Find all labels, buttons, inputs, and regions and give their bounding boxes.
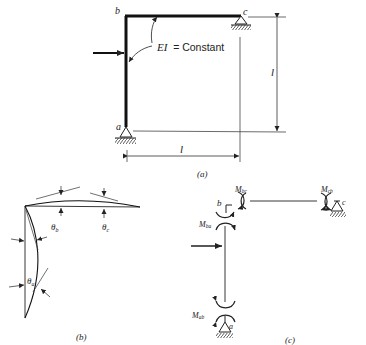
svg-text:a: a — [229, 322, 233, 331]
theta-b-label: θb — [51, 222, 58, 233]
svg-text:l: l — [271, 66, 274, 78]
pin-support-c-freebody: c — [330, 198, 346, 217]
ei-label: EI = Constant — [156, 41, 224, 53]
svg-text:b: b — [217, 198, 222, 208]
moment-cb-label: Mcb — [320, 185, 333, 194]
joint-b: b — [216, 198, 234, 218]
node-label-b: b — [115, 5, 120, 16]
moment-ab-label: Mab — [191, 311, 204, 320]
theta-a-upper-marker — [11, 237, 47, 241]
figure-c: b Mbc Mcb c Mba Mab — [191, 185, 346, 345]
pin-support-a-freebody: a — [216, 316, 233, 338]
moment-ab-upper-arc — [216, 301, 235, 308]
caption-c: (c) — [285, 335, 295, 345]
height-dimension: l — [133, 17, 286, 132]
caption-a: (a) — [197, 169, 208, 179]
moment-ba-arc — [216, 223, 235, 230]
svg-text:l: l — [180, 143, 183, 155]
moment-bc-label: Mbc — [234, 185, 247, 194]
node-label-c: c — [243, 6, 248, 17]
caption-b: (b) — [76, 332, 87, 342]
node-label-a: a — [116, 121, 121, 132]
figure-b: θb θc θa (b) — [9, 186, 140, 342]
moment-ba-label: Mba — [198, 220, 211, 229]
frame-analysis-diagram: b c a EI = Constant l — [0, 0, 366, 345]
ei-leader-column — [129, 46, 152, 62]
deflected-column — [25, 206, 38, 318]
theta-c-label: θc — [102, 222, 109, 233]
svg-text:c: c — [342, 198, 346, 207]
width-dimension: l — [127, 37, 240, 162]
figure-a: b c a EI = Constant l — [93, 5, 286, 179]
ei-leader-beam — [151, 17, 157, 43]
pin-support-c — [231, 16, 251, 30]
theta-a-marker — [9, 285, 50, 297]
moment-cb-arc — [321, 193, 327, 210]
theta-a-label: θa — [27, 276, 34, 287]
